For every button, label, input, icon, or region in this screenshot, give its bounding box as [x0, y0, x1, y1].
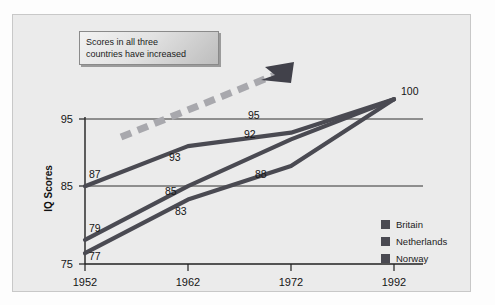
chart-panel: 95 85 75 1952 1962 1972 1992 87 93 95 79… — [12, 14, 471, 292]
point-label-netherlands-1962: 85 — [165, 185, 177, 197]
x-tick-label-1952: 1952 — [73, 276, 97, 288]
point-label-britain-1972: 95 — [248, 109, 260, 121]
legend-swatch-britain — [381, 220, 390, 229]
screenshot-root: 95 85 75 1952 1962 1972 1992 87 93 95 79… — [0, 0, 495, 305]
point-label-britain-1962: 93 — [169, 151, 181, 163]
callout-box: Scores in all three countries have incre… — [79, 31, 219, 65]
legend-swatch-norway — [381, 254, 390, 263]
legend-label-britain: Britain — [396, 219, 423, 230]
point-label-netherlands-1952: 79 — [89, 222, 101, 234]
point-label-converged-1992: 100 — [401, 85, 419, 97]
point-label-britain-1952: 87 — [89, 168, 101, 180]
y-tick-label-95: 95 — [61, 113, 73, 125]
legend-item-britain: Britain — [381, 216, 473, 233]
series-line-britain — [85, 99, 394, 186]
series-line-norway — [85, 99, 394, 253]
x-tick-label-1962: 1962 — [176, 276, 200, 288]
point-label-norway-1952: 77 — [89, 250, 101, 262]
callout-line-1: Scores in all three — [86, 36, 212, 48]
point-label-norway-1962: 83 — [175, 205, 187, 217]
legend-label-norway: Norway — [396, 253, 428, 264]
y-tick-label-75: 75 — [61, 258, 73, 270]
legend-item-norway: Norway — [381, 250, 473, 267]
x-tick-label-1992: 1992 — [382, 276, 406, 288]
callout-line-2: countries have increased — [86, 48, 212, 60]
y-axis-title: IQ Scores — [43, 149, 54, 229]
y-tick-label-85: 85 — [61, 180, 73, 192]
trend-arrow-head-icon — [261, 62, 294, 83]
chart-legend: Britain Netherlands Norway — [381, 216, 473, 267]
point-label-netherlands-1972: 92 — [244, 128, 256, 140]
legend-swatch-netherlands — [381, 237, 390, 246]
legend-item-netherlands: Netherlands — [381, 233, 473, 250]
point-label-norway-1972: 88 — [255, 168, 267, 180]
legend-label-netherlands: Netherlands — [396, 236, 447, 247]
x-tick-label-1972: 1972 — [279, 276, 303, 288]
